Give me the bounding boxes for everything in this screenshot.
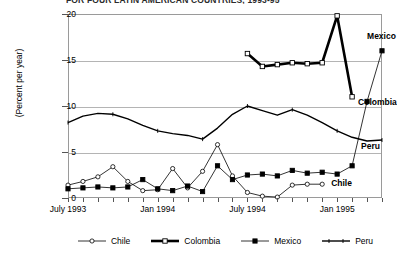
chart-legend: ChileColombiaMexicoPeru [68,233,382,249]
data-point-marker [245,190,249,194]
x-tick-label: Jan 1995 [320,204,355,214]
data-point-marker [290,168,294,172]
legend-swatch-peru [321,236,351,246]
data-point-marker [245,173,249,177]
y-tick-mark [62,14,68,15]
legend-label: Mexico [274,236,301,246]
x-tick-mark [307,198,308,202]
y-tick-mark [62,106,68,107]
data-point-marker [171,166,175,170]
legend-item-colombia[interactable]: Colombia [150,236,220,246]
data-point-marker [305,61,309,65]
x-tick-mark [322,198,323,202]
legend-swatch-chile [77,236,107,246]
x-tick-label: July 1994 [229,204,265,214]
series-label-mexico: Mexico [367,31,396,41]
x-tick-mark [218,198,219,202]
x-tick-mark [203,198,204,202]
data-point-marker [260,64,264,68]
data-point-marker [111,186,115,190]
x-tick-mark [232,198,233,202]
legend-item-mexico[interactable]: Mexico [240,236,301,246]
x-tick-mark [83,198,84,202]
x-tick-mark [247,198,248,202]
data-point-marker [350,95,354,99]
x-tick-mark [113,198,114,202]
data-point-marker [163,239,167,243]
legend-label: Colombia [184,236,220,246]
x-tick-mark [188,198,189,202]
data-point-marker [141,189,145,193]
y-tick-mark [62,60,68,61]
data-point-marker [335,14,339,18]
x-tick-mark [262,198,263,202]
x-tick-mark [98,198,99,202]
data-point-marker [260,172,264,176]
data-point-marker [245,51,249,55]
data-point-marker [380,49,384,53]
x-tick-mark [173,198,174,202]
data-point-marker [141,178,145,182]
series-label-colombia: Colombia [358,97,397,107]
legend-label: Chile [111,236,130,246]
x-tick-mark [292,198,293,202]
data-point-marker [335,172,339,176]
y-axis-label: (Percent per year) [14,28,24,138]
legend-swatch-colombia [150,236,180,246]
data-point-marker [350,164,354,168]
series-line [247,16,352,97]
x-tick-mark [143,198,144,202]
data-point-marker [186,184,190,188]
legend-label: Peru [355,236,373,246]
data-point-marker [253,239,257,243]
series-peru [68,106,382,141]
x-tick-mark [382,198,383,202]
data-point-marker [96,185,100,189]
series-label-peru: Peru [361,141,380,151]
data-point-marker [90,239,94,243]
legend-item-chile[interactable]: Chile [77,236,130,246]
x-tick-mark [68,198,69,202]
data-point-marker [230,178,234,182]
data-point-marker [66,187,70,191]
data-point-marker [200,169,204,173]
data-point-marker [81,179,85,183]
x-tick-label: Jan 1994 [140,204,175,214]
data-point-marker [111,165,115,169]
data-point-marker [290,61,294,65]
y-tick-mark [62,152,68,153]
x-tick-mark [158,198,159,202]
series-colombia [245,14,354,99]
x-tick-mark [337,198,338,202]
data-point-marker [156,187,160,191]
data-point-marker [200,189,204,193]
chart-title: FOR FOUR LATIN AMERICAN COUNTRIES, 1993-… [66,0,386,4]
data-point-marker [171,189,175,193]
data-point-marker [215,164,219,168]
x-tick-mark [352,198,353,202]
data-point-marker [290,183,294,187]
legend-item-peru[interactable]: Peru [321,236,373,246]
data-point-marker [305,171,309,175]
data-point-marker [305,182,309,186]
data-point-marker [215,143,219,147]
series-peru-ticks [68,104,382,142]
legend-swatch-mexico [240,236,270,246]
x-tick-mark [277,198,278,202]
series-layer [68,14,382,198]
data-point-marker [81,186,85,190]
data-point-marker [320,182,324,186]
data-point-marker [126,179,130,183]
data-point-marker [275,174,279,178]
data-point-marker [320,61,324,65]
x-tick-mark [128,198,129,202]
data-point-marker [96,175,100,179]
x-tick-mark [367,198,368,202]
data-point-marker [126,185,130,189]
series-chile [66,143,324,200]
series-line [68,106,382,141]
data-point-marker [320,170,324,174]
x-tick-label: July 1993 [50,204,86,214]
data-point-marker [275,62,279,66]
